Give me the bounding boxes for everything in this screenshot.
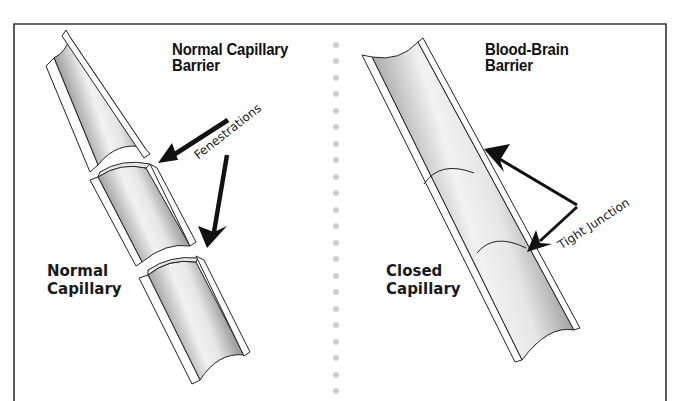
capillary-segment-3	[139, 256, 250, 384]
capillary-diagram	[0, 0, 677, 401]
label-line-1: Closed	[386, 262, 461, 280]
closed-capillary-label: Closed Capillary	[386, 262, 461, 298]
blood-brain-barrier-title: Blood-Brain Barrier	[485, 42, 569, 74]
panel-divider	[333, 42, 339, 394]
capillary-segment-1	[46, 30, 150, 172]
label-line-2: Capillary	[386, 280, 461, 298]
diagram-canvas: Normal Capillary Barrier Normal Capillar…	[0, 0, 677, 401]
title-line-2: Barrier	[485, 58, 569, 74]
title-line-2: Barrier	[172, 58, 288, 74]
label-line-1: Normal	[47, 262, 122, 280]
normal-capillary-barrier-title: Normal Capillary Barrier	[172, 42, 288, 74]
capillary-segment-2	[90, 162, 196, 266]
label-line-2: Capillary	[47, 280, 122, 298]
closed-capillary-tube	[362, 38, 580, 362]
normal-capillary-label: Normal Capillary	[47, 262, 122, 298]
